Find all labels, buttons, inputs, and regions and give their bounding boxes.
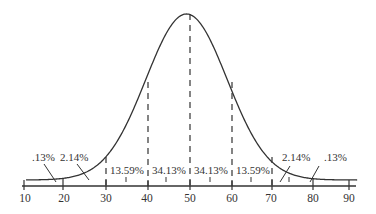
tick-label-90: 90: [343, 192, 355, 204]
band-label-80-90: .13%: [324, 151, 347, 163]
tick-label-60: 60: [226, 192, 238, 204]
tick-label-20: 20: [58, 192, 70, 204]
minor-ticks: [126, 177, 289, 182]
tick-label-40: 40: [141, 192, 153, 204]
band-label-20-30: 2.14%: [60, 151, 88, 163]
major-ticks: [24, 178, 349, 190]
tick-label-50: 50: [184, 192, 196, 204]
tick-label-10: 10: [19, 192, 31, 204]
normal-distribution-chart: .13% 2.14% 13.59% 34.13% 34.13% 13.59% 2…: [0, 0, 376, 214]
band-label-40-50: 34.13%: [152, 164, 186, 176]
band-label-50-60: 34.13%: [194, 164, 228, 176]
band-label-70-80: 2.14%: [282, 151, 310, 163]
band-label-10-20: .13%: [32, 151, 55, 163]
x-tick-labels: 10 20 30 40 50 60 70 80 90: [19, 192, 355, 204]
tick-label-30: 30: [100, 192, 112, 204]
band-label-30-40: 13.59%: [110, 164, 144, 176]
tick-label-70: 70: [265, 192, 277, 204]
tick-label-80: 80: [307, 192, 319, 204]
sd-dashed-lines: [106, 14, 272, 186]
band-label-60-70: 13.59%: [236, 164, 270, 176]
